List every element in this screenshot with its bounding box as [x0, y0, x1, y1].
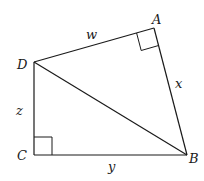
segment-ab — [154, 28, 187, 155]
right-angle-marker-c — [34, 137, 52, 155]
diagonal-db — [34, 62, 187, 155]
right-angle-marker-a — [137, 33, 159, 51]
vertex-label-b: B — [188, 151, 199, 166]
vertex-label-a: A — [151, 12, 161, 27]
vertex-label-d: D — [16, 57, 28, 72]
side-label-y: y — [107, 159, 116, 174]
side-label-x: x — [175, 76, 183, 91]
side-label-z: z — [15, 103, 23, 118]
vertex-label-c: C — [17, 148, 27, 163]
quadrilateral-diagram: A D C B w x z y — [0, 0, 204, 181]
side-label-w: w — [86, 27, 97, 42]
